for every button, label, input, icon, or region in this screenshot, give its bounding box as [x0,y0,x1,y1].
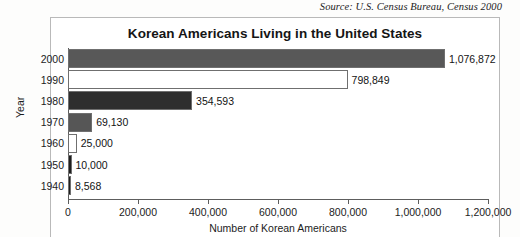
bar-1960[interactable] [68,134,77,153]
bar-row: 1,076,872 [68,49,488,68]
bar-1990[interactable] [68,70,348,89]
y-tick-label: 1940 [41,180,64,192]
bar-row: 8,568 [68,176,488,195]
x-tick [278,199,279,204]
bar-value-label: 69,130 [92,116,128,128]
bar-value-label: 8,568 [71,180,101,192]
y-tick-label-wrap: 1940 [28,176,64,195]
source-note: Source: U.S. Census Bureau, Census 2000 [320,1,502,12]
chart-page: Source: U.S. Census Bureau, Census 2000 … [0,0,520,237]
x-tick-label: 1,200,000 [465,206,512,218]
x-tick-label: 0 [65,206,71,218]
x-tick-label: 200,000 [119,206,157,218]
x-tick [208,199,209,204]
x-tick-label: 1,000,000 [395,206,442,218]
y-tick-label: 1980 [41,95,64,107]
x-tick-label: 800,000 [329,206,367,218]
bar-row: 10,000 [68,155,488,174]
y-tick-label: 1960 [41,137,64,149]
chart-title: Korean Americans Living in the United St… [51,26,499,41]
bar-row: 798,849 [68,70,488,89]
y-axis-title: Year [14,97,26,118]
x-tick-label: 600,000 [259,206,297,218]
y-tick-label-wrap: 1970 [28,113,64,132]
x-tick [488,199,489,204]
bar-row: 25,000 [68,134,488,153]
x-tick [348,199,349,204]
y-tick-label-wrap: 1980 [28,91,64,110]
bar-2000[interactable] [68,49,445,68]
y-tick-label: 1950 [41,159,64,171]
y-tick-label: 2000 [41,53,64,65]
bar-row: 69,130 [68,113,488,132]
x-tick-label: 400,000 [189,206,227,218]
y-tick-label-wrap: 1960 [28,134,64,153]
y-tick-label-wrap: 2000 [28,49,64,68]
x-axis-title: Number of Korean Americans [68,222,488,234]
x-tick [418,199,419,204]
bar-value-label: 798,849 [348,74,390,86]
x-tick [138,199,139,204]
bar-1980[interactable] [68,91,192,110]
x-tick [68,199,69,204]
bar-row: 354,593 [68,91,488,110]
y-tick-label: 1970 [41,116,64,128]
y-tick-label: 1990 [41,74,64,86]
bar-value-label: 10,000 [72,159,108,171]
y-tick-label-wrap: 1990 [28,70,64,89]
y-tick-label-wrap: 1950 [28,155,64,174]
bar-value-label: 1,076,872 [445,53,496,65]
bar-value-label: 354,593 [192,95,234,107]
bar-value-label: 25,000 [77,137,113,149]
bar-1970[interactable] [68,113,92,132]
